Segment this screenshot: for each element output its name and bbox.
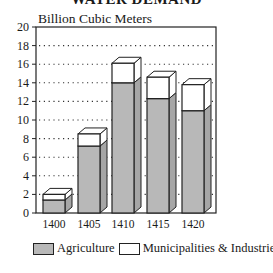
legend-swatch-municipal	[119, 243, 140, 255]
legend-label-municipal: Municipalities & Industries	[143, 241, 273, 256]
bar-segment-agriculture	[78, 146, 100, 213]
bar-1400	[43, 188, 72, 213]
legend-label-agriculture: Agriculture	[57, 241, 115, 256]
bar-1420	[182, 79, 211, 213]
legend-swatch-agriculture	[33, 243, 54, 255]
bar-segment-municipal	[43, 194, 65, 200]
plot-area	[0, 0, 273, 273]
bar-segment-agriculture	[182, 111, 204, 213]
bar-segment-municipal	[112, 63, 134, 83]
bar-segment-agriculture	[147, 99, 169, 213]
bar-segment-municipal	[147, 77, 169, 98]
legend: Agriculture Municipalities & Industries	[33, 241, 273, 256]
bar-1410	[112, 57, 141, 213]
bar-segment-municipal	[182, 85, 204, 111]
bar-1415	[147, 71, 176, 213]
bar-segment-municipal	[78, 134, 100, 146]
bar-1405	[78, 128, 107, 213]
bar-segment-agriculture	[43, 200, 65, 213]
bar-segment-agriculture	[112, 83, 134, 213]
